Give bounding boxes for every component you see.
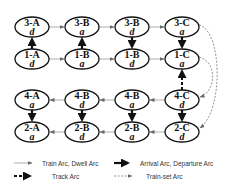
node-type: a [80,26,85,37]
node-1-b-d: 1-Bd [115,49,149,69]
legend-train-dwell-label: Train Arc, Dwell Arc [42,160,99,167]
node-3-b-d: 3-Bd [115,17,149,37]
node-4-b-d: 4-Bd [65,90,99,110]
node-2-b-d: 2-Bd [65,122,99,142]
legend: Train Arc, Dwell Arc Arrival Arc, Depart… [14,160,214,180]
train-dwell-arcs [49,27,165,132]
node-type: a [180,26,185,37]
legend-arrival-departure-label: Arrival Arc, Departure Arc [140,160,214,168]
node-2-a-a: 2-Aa [15,122,49,142]
node-3-b-a: 3-Ba [65,17,99,37]
node-1-b-a: 1-Ba [65,49,99,69]
node-1-a-d: 1-Ad [15,49,49,69]
legend-train-set-label: Train-set Arc [146,173,183,180]
legend-arrival-departure: Arrival Arc, Departure Arc [114,160,214,168]
node-1-c-a: 1-Ca [165,49,199,69]
node-type: a [130,131,135,142]
legend-train-set: Train-set Arc [114,173,183,180]
arrival-departure-arcs [32,37,182,120]
train-set-arcs [199,25,217,128]
node-type: a [130,99,135,110]
legend-train-dwell: Train Arc, Dwell Arc [14,160,99,167]
node-4-b-a: 4-Ba [115,90,149,110]
node-type: a [80,58,85,69]
node-2-b-a: 2-Ba [115,122,149,142]
legend-track-label: Track Arc [52,173,80,180]
node-4-a-a: 4-Aa [15,90,49,110]
train-network-diagram: 3-Ad3-Ba3-Bd3-Ca1-Ad1-Ba1-Bd1-Ca4-Aa4-Bd… [0,0,236,191]
node-3-c-a: 3-Ca [165,17,199,37]
node-2-c-d: 2-Cd [165,122,199,142]
nodes: 3-Ad3-Ba3-Bd3-Ca1-Ad1-Ba1-Bd1-Ca4-Aa4-Bd… [15,17,199,142]
node-type: a [30,99,35,110]
node-3-a-d: 3-Ad [15,17,49,37]
legend-track: Track Arc [14,173,80,180]
node-type: a [30,131,35,142]
node-4-c-d: 4-Cd [165,90,199,110]
node-type: a [180,58,185,69]
